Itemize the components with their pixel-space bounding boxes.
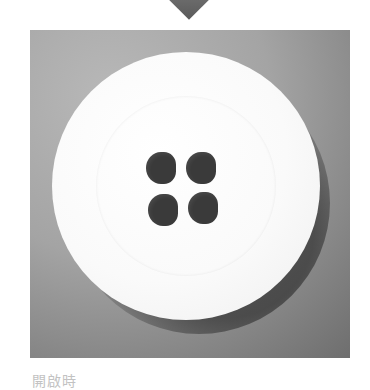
dot-bottom-right — [188, 192, 218, 224]
dot-bottom-left — [148, 194, 178, 226]
dot-top-left — [146, 152, 176, 184]
down-arrow-icon — [169, 0, 209, 20]
image-frame — [30, 30, 350, 358]
plate-rim — [96, 96, 276, 276]
plate — [52, 52, 320, 320]
caption-text: 開啟時 — [32, 370, 77, 390]
dot-top-right — [186, 152, 216, 184]
